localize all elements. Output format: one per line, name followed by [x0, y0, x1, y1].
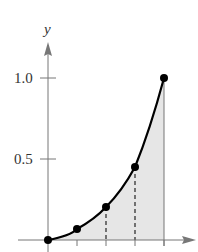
- chart-canvas: y 1.0 0.5: [0, 0, 198, 252]
- x-ticks: [77, 240, 164, 246]
- y-tick-label-0.5: 0.5: [14, 151, 33, 167]
- y-axis-arrow-icon: [44, 42, 52, 56]
- x-axis-arrow-icon: [182, 236, 196, 244]
- y-tick-label-1.0: 1.0: [14, 70, 33, 86]
- y-axis-label: y: [42, 21, 51, 37]
